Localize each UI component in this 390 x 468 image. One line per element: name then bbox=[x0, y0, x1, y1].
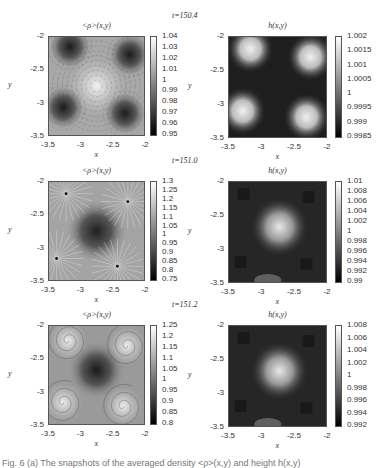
y-tick: -3 bbox=[20, 99, 44, 107]
y-tick: -3 bbox=[200, 100, 224, 108]
colorbar-tick: 1.1 bbox=[162, 354, 173, 362]
left-colorbar-3 bbox=[150, 325, 157, 425]
right-plot-title: h(x,y) bbox=[228, 310, 327, 319]
y-tick: -3 bbox=[200, 245, 224, 253]
colorbar-tick: 1.0015 bbox=[347, 46, 371, 54]
colorbar-tick: 0.95 bbox=[162, 130, 178, 138]
colorbar-tick: 1.008 bbox=[347, 187, 367, 195]
colorbar-tick: 0.8 bbox=[162, 266, 173, 274]
y-tick: -2.5 bbox=[200, 355, 224, 363]
y-tick: -2 bbox=[200, 177, 224, 185]
colorbar-tick: 1 bbox=[347, 227, 351, 235]
x-axis-label: x bbox=[276, 297, 280, 306]
x-tick: -3.5 bbox=[216, 143, 240, 151]
y-tick: -2 bbox=[200, 32, 224, 40]
colorbar-tick: 1.02 bbox=[162, 54, 178, 62]
colorbar-tick: 1.008 bbox=[347, 321, 367, 329]
colorbar-tick: 1 bbox=[347, 89, 351, 97]
colorbar-tick: 0.97 bbox=[162, 108, 178, 116]
x-tick: -2.5 bbox=[101, 286, 125, 294]
y-tick: -3 bbox=[200, 389, 224, 397]
x-tick: -3 bbox=[68, 141, 92, 149]
colorbar-tick: 0.994 bbox=[347, 409, 367, 417]
x-tick: -2 bbox=[315, 143, 339, 151]
x-tick: -2 bbox=[133, 286, 157, 294]
colorbar-tick: 1 bbox=[347, 371, 351, 379]
x-axis-label: x bbox=[95, 439, 99, 448]
x-tick: -2.5 bbox=[282, 288, 306, 296]
right-colorbar-2 bbox=[335, 181, 342, 283]
figure-caption: Fig. 6 (a) The snapshots of the averaged… bbox=[2, 458, 301, 468]
x-tick: -3.5 bbox=[36, 141, 60, 149]
colorbar-tick: 0.998 bbox=[347, 384, 367, 392]
colorbar-tick: 0.998 bbox=[347, 237, 367, 245]
right-heatmap-1 bbox=[228, 36, 327, 138]
right-heatmap-3 bbox=[228, 325, 327, 427]
colorbar-tick: 0.85 bbox=[162, 408, 178, 416]
colorbar-tick: 1 bbox=[162, 230, 166, 238]
y-axis-label: y bbox=[8, 80, 12, 89]
x-axis-label: x bbox=[276, 441, 280, 450]
colorbar-tick: 1.3 bbox=[162, 177, 173, 185]
y-tick: -2.5 bbox=[200, 66, 224, 74]
right-heatmap-2 bbox=[228, 181, 327, 283]
colorbar-tick: 1.25 bbox=[162, 186, 178, 194]
colorbar-tick: 1 bbox=[162, 375, 166, 383]
colorbar-tick: 1.25 bbox=[162, 321, 178, 329]
x-axis-label: x bbox=[276, 152, 280, 161]
right-colorbar-1 bbox=[335, 36, 342, 138]
y-axis-label: y bbox=[188, 226, 192, 235]
x-tick: -3.5 bbox=[216, 288, 240, 296]
x-tick: -2.5 bbox=[282, 432, 306, 440]
colorbar-tick: 1.1 bbox=[162, 213, 173, 221]
colorbar-tick: 0.99 bbox=[347, 277, 363, 285]
y-tick: -3 bbox=[20, 388, 44, 396]
y-axis-label: y bbox=[188, 370, 192, 379]
colorbar-tick: 1.05 bbox=[162, 365, 178, 373]
left-colorbar-2 bbox=[150, 181, 157, 281]
y-tick: -3.5 bbox=[200, 134, 224, 142]
colorbar-tick: 1.006 bbox=[347, 334, 367, 342]
y-tick: -2.5 bbox=[20, 65, 44, 73]
y-axis-label: y bbox=[8, 225, 12, 234]
y-tick: -3.5 bbox=[20, 132, 44, 140]
colorbar-tick: 0.9 bbox=[162, 248, 173, 256]
colorbar-tick: 0.96 bbox=[162, 119, 178, 127]
colorbar-tick: 1.004 bbox=[347, 346, 367, 354]
y-tick: -2.5 bbox=[20, 210, 44, 218]
colorbar-tick: 1.006 bbox=[347, 197, 367, 205]
colorbar-tick: 0.99 bbox=[162, 86, 178, 94]
colorbar-tick: 0.996 bbox=[347, 396, 367, 404]
left-plot-title: <ρ>(x,y) bbox=[48, 21, 145, 30]
x-tick: -3.5 bbox=[36, 430, 60, 438]
colorbar-tick: 1.004 bbox=[347, 207, 367, 215]
left-colorbar-1 bbox=[150, 36, 157, 136]
time-label: t=151.0 bbox=[172, 156, 198, 165]
colorbar-tick: 0.992 bbox=[347, 421, 367, 429]
y-tick: -3.5 bbox=[200, 279, 224, 287]
colorbar-tick: 1.15 bbox=[162, 204, 178, 212]
left-heatmap-2 bbox=[48, 181, 145, 281]
colorbar-tick: 1.05 bbox=[162, 222, 178, 230]
colorbar-tick: 1.2 bbox=[162, 332, 173, 340]
colorbar-tick: 0.994 bbox=[347, 257, 367, 265]
y-tick: -3.5 bbox=[20, 421, 44, 429]
colorbar-tick: 1.002 bbox=[347, 217, 367, 225]
right-colorbar-3 bbox=[335, 325, 342, 427]
y-tick: -2.5 bbox=[200, 211, 224, 219]
x-tick: -3 bbox=[249, 143, 273, 151]
x-tick: -3.5 bbox=[216, 432, 240, 440]
colorbar-tick: 0.996 bbox=[347, 247, 367, 255]
left-heatmap-3 bbox=[48, 325, 145, 425]
x-tick: -3 bbox=[68, 286, 92, 294]
y-tick: -2 bbox=[20, 321, 44, 329]
colorbar-tick: 0.95 bbox=[162, 239, 178, 247]
colorbar-tick: 0.9985 bbox=[347, 132, 371, 140]
x-tick: -2 bbox=[133, 430, 157, 438]
right-plot-title: h(x,y) bbox=[228, 21, 327, 30]
colorbar-tick: 1.01 bbox=[162, 65, 178, 73]
colorbar-tick: 0.85 bbox=[162, 257, 178, 265]
y-tick: -2 bbox=[20, 177, 44, 185]
time-label: t=150.4 bbox=[172, 11, 198, 20]
colorbar-tick: 1.15 bbox=[162, 343, 178, 351]
